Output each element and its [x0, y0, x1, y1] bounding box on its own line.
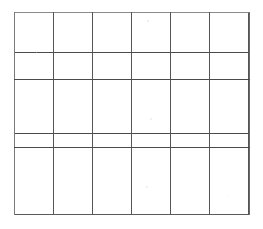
grid-cell-r0c0[interactable]: [14, 12, 53, 53]
grid-cell-r2c0[interactable]: [14, 134, 53, 215]
grid-border-bottom: [14, 214, 250, 215]
grid-cell-r1c3[interactable]: [131, 53, 170, 134]
grid-cell-r0c1[interactable]: [53, 12, 92, 53]
grid-rule-vertical-1: [53, 12, 54, 215]
grid-cell-r1c0[interactable]: [14, 53, 53, 134]
grid-rule-vertical-3: [131, 12, 132, 215]
grid-cell-r0c2[interactable]: [92, 12, 131, 53]
grid-cell-r1c2[interactable]: [92, 53, 131, 134]
grid-rule-vertical-4: [170, 12, 171, 215]
scan-speckle-4: [228, 196, 229, 197]
grid-rule-horizontal-2: [14, 147, 250, 148]
scan-speckle-2: [146, 186, 148, 188]
page-canvas: [0, 0, 263, 229]
grid-cell-r2c3[interactable]: [131, 134, 170, 215]
scan-speckle-0: [147, 20, 149, 22]
grid-border-top: [14, 12, 250, 13]
grid-cell-r1c5[interactable]: [209, 53, 248, 134]
grid-border-left: [14, 12, 15, 215]
grid-rule-vertical-2: [92, 12, 93, 215]
grid-rule-vertical-5: [209, 12, 210, 215]
grid-cell-r2c2[interactable]: [92, 134, 131, 215]
grid-cell-r1c4[interactable]: [170, 53, 209, 134]
grid-cell-r2c4[interactable]: [170, 134, 209, 215]
grid-cell-r0c4[interactable]: [170, 12, 209, 53]
grid-rule-horizontal-1: [14, 79, 250, 80]
grid-cell-r0c3[interactable]: [131, 12, 170, 53]
scan-speckle-1: [150, 118, 152, 120]
grid-cell-r1c1[interactable]: [53, 53, 92, 134]
grid-cell-r2c5[interactable]: [209, 134, 248, 215]
scan-speckle-3: [36, 52, 37, 53]
grid-cell-r2c1[interactable]: [53, 134, 92, 215]
grid-cell-r0c5[interactable]: [209, 12, 248, 53]
grid-border-right: [249, 12, 250, 215]
